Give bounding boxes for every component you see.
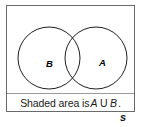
caption-set-b: B	[109, 97, 118, 109]
venn-diagram-svg	[7, 6, 134, 93]
venn-set-label-a: A	[99, 58, 106, 68]
caption-set-a: A	[89, 97, 98, 109]
corner-mark: s	[120, 112, 126, 123]
caption-prefix-text: Shaded area is	[20, 97, 89, 109]
venn-diagram-region: B A	[7, 6, 134, 93]
venn-set-label-b: B	[46, 59, 53, 69]
venn-figure-box: B A Shaded area is A U B .	[6, 5, 135, 112]
caption-union-operator: U	[98, 97, 109, 109]
caption-period: .	[118, 97, 121, 109]
figure-caption: Shaded area is A U B .	[7, 94, 134, 111]
